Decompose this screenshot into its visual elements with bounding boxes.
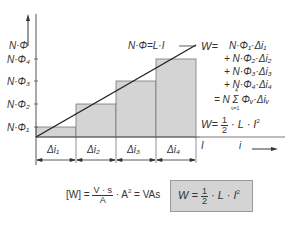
result-lead: W= bbox=[201, 118, 218, 130]
boxed-lead: W = bbox=[178, 189, 198, 201]
sum-upper: 4 bbox=[235, 88, 238, 93]
bar-3 bbox=[116, 81, 156, 137]
interval-1: Δi₁ bbox=[47, 145, 59, 155]
result-tail: · L · I bbox=[231, 118, 256, 130]
boxed-formula: W = 12 · L · I2 bbox=[170, 180, 253, 212]
interval-4: Δi₄ bbox=[167, 145, 180, 155]
energy-term-3: + N·Φ₃·Δi₃ bbox=[224, 67, 272, 77]
line-label: N·Φ=L·I bbox=[128, 41, 164, 51]
y-tick-4: N·Φ₄ bbox=[7, 55, 30, 65]
result-fraction: 12 bbox=[221, 116, 228, 135]
units-rhs: = VAs bbox=[134, 189, 160, 200]
energy-term-1: N·Φ₁·Δi₁ bbox=[229, 41, 267, 51]
energy-term-2: + N·Φ₂·Δi₂ bbox=[224, 54, 271, 64]
interval-2: Δi₂ bbox=[87, 145, 100, 155]
x-label-i: i bbox=[239, 141, 241, 151]
energy-term-4: + N·Φ₄·Δi₄ bbox=[224, 80, 272, 90]
energy-result: W= 12 · L · I2 bbox=[201, 116, 260, 135]
interval-3: Δi₃ bbox=[127, 145, 140, 155]
energy-lead: W= bbox=[201, 41, 218, 52]
bar-1 bbox=[36, 127, 76, 137]
boxed-tail: · L · I bbox=[211, 189, 236, 201]
bar-2 bbox=[76, 104, 116, 137]
y-tick-1: N·Φ₁ bbox=[7, 123, 29, 133]
y-tick-3: N·Φ₃ bbox=[7, 77, 30, 87]
units-lhs: [W] = bbox=[66, 189, 90, 200]
units-tail: · A bbox=[116, 189, 128, 200]
units-formula: [W] = V · sA · A2 = VAs bbox=[66, 186, 160, 205]
sum-lower: v=1 bbox=[231, 106, 239, 111]
energy-sum: = N Σ Φᵥ·Δiᵥ bbox=[214, 95, 269, 105]
boxed-fraction: 12 bbox=[201, 187, 208, 206]
y-tick-2: N·Φ₂ bbox=[7, 100, 30, 110]
bar-4 bbox=[156, 59, 196, 137]
units-fraction: V · sA bbox=[92, 186, 113, 205]
y-axis-label: N·Φ bbox=[9, 41, 28, 51]
x-label-I: I bbox=[201, 141, 204, 151]
